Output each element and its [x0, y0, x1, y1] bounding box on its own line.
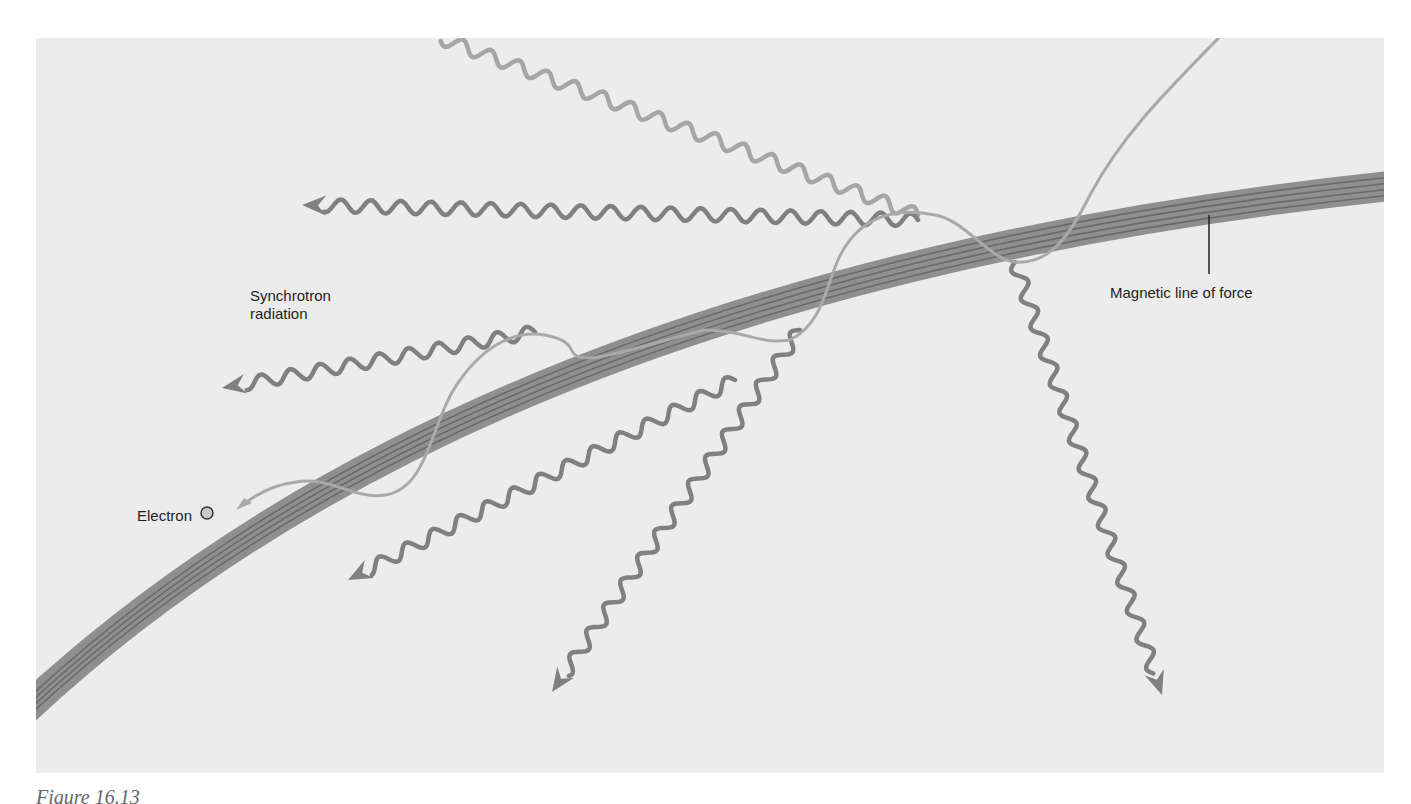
synchrotron-diagram — [0, 0, 1411, 804]
arrowhead-icon — [222, 374, 247, 394]
wave-lower-left — [348, 377, 735, 580]
arrowhead-icon — [302, 196, 326, 216]
wave-bottom — [552, 330, 800, 692]
figure-caption: Figure 16.13 — [36, 786, 140, 804]
electron-helix-path — [236, 0, 1255, 510]
wave-top-upper — [441, 40, 918, 216]
wave-mid-left — [222, 327, 535, 394]
electron-label: Electron — [137, 507, 192, 525]
arrowhead-icon — [348, 560, 374, 580]
electron-icon — [201, 507, 213, 519]
synchrotron-radiation-waves — [222, 40, 1164, 696]
magnetic-line-of-force-label: Magnetic line of force — [1110, 284, 1253, 302]
wave-right-down — [1011, 262, 1164, 695]
synchrotron-radiation-label: Synchrotron radiation — [250, 287, 370, 323]
magnetic-field-band — [20, 176, 1400, 724]
wave-top-left — [302, 196, 918, 226]
